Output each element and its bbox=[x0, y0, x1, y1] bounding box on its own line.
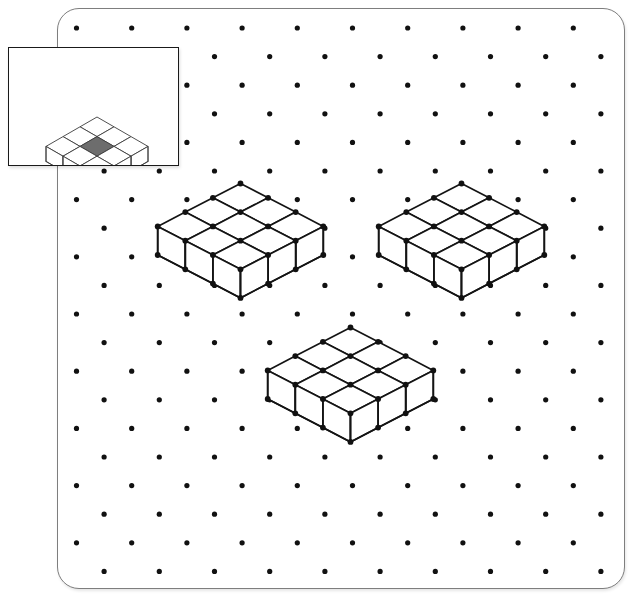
example-cube-building bbox=[9, 48, 178, 165]
example-inset-box bbox=[8, 47, 179, 166]
example-cube-building bbox=[46, 117, 148, 165]
